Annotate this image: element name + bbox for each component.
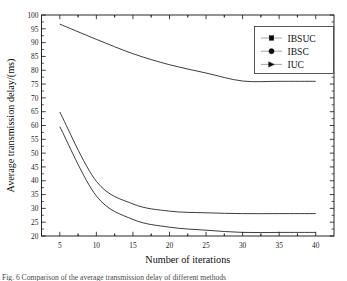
x-tick-label-30: 30	[239, 241, 247, 250]
y-tick-label-35: 35	[31, 190, 39, 199]
y-tick-label-75: 75	[31, 80, 39, 89]
y-tick-label-90: 90	[31, 38, 39, 47]
figure-caption: Fig. 6 Comparison of the average transmi…	[2, 273, 226, 281]
y-tick-label-55: 55	[31, 135, 39, 144]
y-tick-label-60: 60	[31, 121, 39, 130]
y-tick-label-65: 65	[31, 107, 39, 116]
figure-container: 2025303540455055606570758085909510051015…	[0, 0, 347, 281]
transmission-delay-line-chart: 2025303540455055606570758085909510051015…	[0, 0, 347, 281]
x-tick-label-15: 15	[129, 241, 137, 250]
y-tick-label-95: 95	[31, 25, 39, 34]
x-tick-label-35: 35	[275, 241, 283, 250]
y-tick-label-25: 25	[31, 218, 39, 227]
y-tick-label-80: 80	[31, 66, 39, 75]
legend-label-ibsc: IBSC	[288, 46, 309, 57]
y-tick-label-40: 40	[31, 176, 39, 185]
y-tick-label-20: 20	[31, 232, 39, 241]
x-tick-label-40: 40	[312, 241, 320, 250]
y-tick-label-100: 100	[27, 11, 38, 20]
y-tick-label-50: 50	[31, 149, 39, 158]
y-tick-label-85: 85	[31, 52, 39, 61]
legend-label-ibsuc: IBSUC	[288, 33, 316, 44]
legend-label-iuc: IUC	[288, 59, 305, 70]
x-tick-label-10: 10	[93, 241, 101, 250]
y-axis-title: Average transmission delay/(ms)	[5, 59, 17, 193]
y-tick-label-45: 45	[31, 163, 39, 172]
x-tick-label-20: 20	[166, 241, 174, 250]
series-line-ibsuc	[60, 127, 316, 233]
legend-marker-ibsc	[269, 49, 274, 54]
x-axis-title: Number of iterations	[145, 254, 230, 265]
y-tick-label-70: 70	[31, 94, 39, 103]
legend-marker-ibsuc	[269, 36, 274, 41]
x-tick-label-25: 25	[202, 241, 210, 250]
x-tick-label-5: 5	[58, 241, 62, 250]
y-tick-label-30: 30	[31, 204, 39, 213]
